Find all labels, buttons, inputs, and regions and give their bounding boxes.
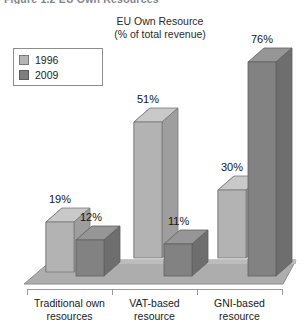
value-label-traditional-1996: 19% [49, 193, 71, 205]
category-line2: resource [219, 310, 260, 322]
x-axis-line [27, 289, 283, 290]
value-label-gni-1996: 30% [221, 161, 243, 173]
category-line1: VAT-based [129, 297, 179, 309]
category-label-gni: GNI-based resource [197, 297, 282, 322]
chart-figure: Figure 1.2 EU Own Resources EU Own Resou… [0, 0, 308, 332]
value-label-gni-2009: 76% [251, 33, 273, 45]
category-line2: resources [46, 310, 92, 322]
bar-gni-2009 [248, 48, 292, 276]
category-line2: resource [134, 310, 175, 322]
axis-tick [282, 289, 283, 295]
category-line1: GNI-based [214, 297, 265, 309]
value-label-traditional-2009: 12% [80, 211, 102, 223]
category-label-vat: VAT-based resource [112, 297, 197, 322]
value-label-vat-2009: 11% [168, 215, 189, 227]
axis-tick [27, 289, 28, 295]
category-label-traditional: Traditional own resources [27, 297, 112, 322]
axis-tick [112, 289, 113, 295]
axis-tick [197, 289, 198, 295]
chart-bars [0, 0, 308, 332]
category-line1: Traditional own [34, 297, 105, 309]
value-label-vat-1996: 51% [137, 93, 159, 105]
bar-vat-1996 [134, 108, 178, 258]
